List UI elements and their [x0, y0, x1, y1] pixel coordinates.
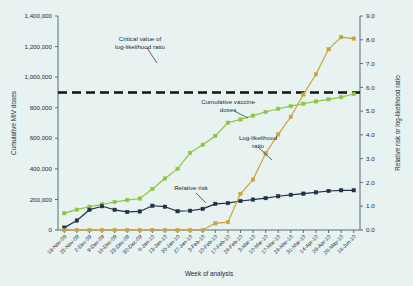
y-axis-right-tick-label: 7.0 — [366, 60, 375, 67]
series-marker — [176, 228, 179, 231]
annotation-line-1: Critical value of — [119, 35, 162, 42]
annotation-critical: Critical value oflog-likelihood ratio — [115, 35, 165, 50]
series-marker — [251, 178, 254, 181]
series-marker — [126, 228, 129, 231]
y-axis-right-tick-label: 1.0 — [366, 202, 375, 209]
series-marker — [126, 198, 129, 201]
series-marker — [100, 228, 103, 231]
series-marker — [138, 228, 141, 231]
series-marker — [302, 102, 305, 105]
series-marker — [151, 204, 154, 207]
series-marker — [163, 205, 166, 208]
series-marker — [63, 228, 66, 231]
series-marker — [176, 210, 179, 213]
y-axis-right-tick-label: 6.0 — [366, 84, 375, 91]
y-axis-left-tick-label: 200,000 — [30, 196, 53, 203]
y-axis-right-tick-label: 5.0 — [366, 107, 375, 114]
series-marker — [226, 201, 229, 204]
y-axis-left-tick-label: 400,000 — [30, 165, 53, 172]
series-marker — [339, 35, 342, 38]
y-axis-right-tick-label: 2.0 — [366, 179, 375, 186]
series-marker — [75, 228, 78, 231]
annotation-relrisk: Relative risk — [174, 184, 209, 191]
series-marker — [327, 48, 330, 51]
series-marker — [289, 193, 292, 196]
series-marker — [113, 228, 116, 231]
series-marker — [188, 151, 191, 154]
series-marker — [352, 189, 355, 192]
annotation-line-2: doses — [220, 106, 237, 113]
series-marker — [151, 228, 154, 231]
series-marker — [327, 98, 330, 101]
y-axis-left-tick-label: 600,000 — [30, 134, 53, 141]
series-marker — [163, 177, 166, 180]
series-marker — [289, 104, 292, 107]
y-axis-left-tick-label: 0 — [49, 226, 53, 233]
series-marker — [314, 191, 317, 194]
series-marker — [352, 37, 355, 40]
y-axis-left-tick-label: 1,400,000 — [24, 12, 52, 19]
series-marker — [151, 187, 154, 190]
x-axis-title: Week of analysis — [185, 270, 233, 278]
series-marker — [75, 208, 78, 211]
series-marker — [75, 219, 78, 222]
series-marker — [214, 202, 217, 205]
series-marker — [188, 209, 191, 212]
series-marker — [327, 189, 330, 192]
y-axis-left-title: Cumulative MIV doses — [10, 91, 17, 155]
annotation-line-2: ratio — [252, 142, 265, 149]
y-axis-right-tick-label: 3.0 — [366, 155, 375, 162]
series-marker — [352, 92, 355, 95]
series-marker — [201, 143, 204, 146]
y-axis-right-tick-label: 9.0 — [366, 12, 375, 19]
y-axis-right-tick-label: 8.0 — [366, 36, 375, 43]
annotation-line-1: Relative risk — [174, 184, 209, 191]
series-marker — [88, 208, 91, 211]
y-axis-left-tick-label: 1,200,000 — [24, 43, 52, 50]
series-marker — [264, 196, 267, 199]
series-marker — [264, 110, 267, 113]
series-marker — [277, 195, 280, 198]
series-marker — [314, 73, 317, 76]
series-marker — [302, 192, 305, 195]
series-marker — [214, 134, 217, 137]
y-axis-right-title: Relative risk or log-likelihood ratio — [394, 75, 402, 171]
series-marker — [176, 167, 179, 170]
series-marker — [226, 121, 229, 124]
series-marker — [277, 107, 280, 110]
series-marker — [302, 93, 305, 96]
series-marker — [339, 189, 342, 192]
y-axis-right-tick-label: 4.0 — [366, 131, 375, 138]
chart-container: 0200,000400,000600,000800,0001,000,0001,… — [0, 0, 413, 286]
series-marker — [126, 210, 129, 213]
series-marker — [113, 200, 116, 203]
line-chart: 0200,000400,000600,000800,0001,000,0001,… — [0, 0, 413, 286]
annotation-line-2: log-likelihood ratio — [115, 43, 165, 50]
series-marker — [113, 208, 116, 211]
series-marker — [138, 210, 141, 213]
series-marker — [188, 228, 191, 231]
series-marker — [239, 192, 242, 195]
series-marker — [63, 211, 66, 214]
series-marker — [214, 222, 217, 225]
series-marker — [239, 199, 242, 202]
series-marker — [201, 207, 204, 210]
y-axis-right-tick-label: 0.0 — [366, 226, 375, 233]
series-marker — [138, 197, 141, 200]
series-marker — [88, 228, 91, 231]
series-marker — [251, 198, 254, 201]
series-marker — [201, 228, 204, 231]
series-marker — [339, 95, 342, 98]
series-marker — [289, 115, 292, 118]
annotation-line-1: Log-likelihood — [239, 134, 278, 141]
series-marker — [100, 205, 103, 208]
y-axis-left-tick-label: 1,000,000 — [24, 73, 52, 80]
series-marker — [239, 118, 242, 121]
y-axis-left-tick-label: 800,000 — [30, 104, 53, 111]
series-marker — [226, 220, 229, 223]
series-marker — [163, 228, 166, 231]
series-marker — [314, 100, 317, 103]
series-marker — [251, 114, 254, 117]
annotation-line-1: Cumulative vaccine — [201, 98, 255, 105]
